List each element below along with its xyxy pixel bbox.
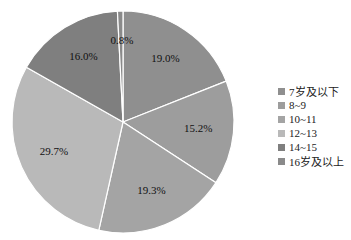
legend-label: 8~9 [289, 99, 306, 111]
legend-item: 16岁及以上 [278, 154, 344, 168]
slice-value-label: 29.7% [40, 145, 68, 157]
legend-label: 12~13 [289, 127, 317, 139]
legend-swatch [278, 130, 285, 137]
slice-value-label: 16.0% [69, 50, 97, 62]
legend-label: 7岁及以下 [289, 83, 339, 99]
legend-swatch [278, 144, 285, 151]
legend-label: 16岁及以上 [289, 153, 344, 169]
legend-label: 10~11 [289, 113, 317, 125]
legend-item: 7岁及以下 [278, 84, 344, 98]
slice-value-label: 15.2% [184, 122, 212, 134]
legend-item: 14~15 [278, 140, 344, 154]
legend: 7岁及以下 8~9 10~11 12~13 14~15 16岁及以上 [278, 84, 344, 168]
slice-value-label: 19.0% [151, 52, 179, 64]
legend-item: 10~11 [278, 112, 344, 126]
legend-item: 12~13 [278, 126, 344, 140]
legend-swatch [278, 102, 285, 109]
legend-label: 14~15 [289, 141, 317, 153]
legend-swatch [278, 116, 285, 123]
legend-swatch [278, 158, 285, 165]
legend-item: 8~9 [278, 98, 344, 112]
legend-swatch [278, 88, 285, 95]
slice-value-label: 0.8% [111, 34, 134, 46]
slice-value-label: 19.3% [137, 184, 165, 196]
